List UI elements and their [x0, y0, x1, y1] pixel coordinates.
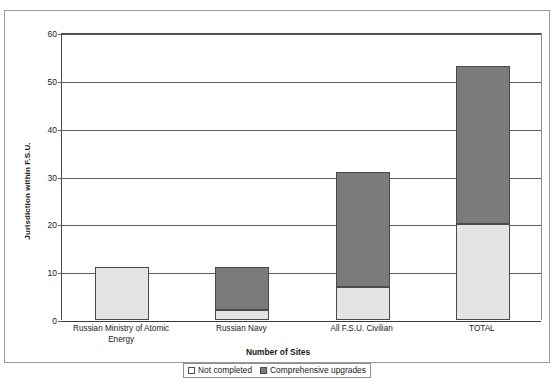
- y-tick-mark-50: [58, 82, 62, 83]
- y-tick-label: 40: [48, 125, 57, 135]
- bar-segment-comprehensive-upgrades[interactable]: [336, 172, 390, 287]
- y-axis-title: Jurisdiction within F.S.U.: [21, 0, 35, 111]
- bar-segment-not-completed[interactable]: [456, 224, 510, 320]
- y-tick-label: 60: [48, 29, 57, 39]
- comprehensive-upgrades-swatch: [260, 367, 267, 374]
- category-label: Russian Navy: [181, 324, 301, 335]
- y-tick-mark-30: [58, 178, 62, 179]
- bar-segment-not-completed[interactable]: [215, 310, 269, 320]
- bar-segment-not-completed[interactable]: [336, 287, 390, 320]
- bar-group[interactable]: [456, 33, 510, 320]
- category-label: TOTAL: [422, 324, 542, 335]
- bar-segment-comprehensive-upgrades[interactable]: [456, 66, 510, 224]
- chart-frame: Jurisdiction within F.S.U. 6050403020100…: [4, 10, 550, 363]
- gridline-0: [62, 321, 541, 322]
- legend-entry[interactable]: Not completed: [188, 365, 252, 375]
- y-tick-mark-20: [58, 225, 62, 226]
- bar-segment-comprehensive-upgrades[interactable]: [215, 267, 269, 310]
- bar-group[interactable]: [95, 33, 149, 320]
- y-axis-title-text: Jurisdiction within F.S.U.: [21, 111, 35, 271]
- bar-group[interactable]: [336, 33, 390, 320]
- x-axis-title: Number of Sites: [5, 347, 551, 357]
- category-label: Russian Ministry of AtomicEnergy: [61, 324, 181, 345]
- legend-label: Not completed: [198, 365, 252, 375]
- y-tick-mark-60: [58, 34, 62, 35]
- y-tick-mark-40: [58, 130, 62, 131]
- bar-group[interactable]: [215, 33, 269, 320]
- category-label-line: Russian Ministry of Atomic: [61, 324, 181, 335]
- category-label-line: All F.S.U. Civilian: [302, 324, 422, 335]
- y-tick-label: 30: [48, 173, 57, 183]
- category-label: All F.S.U. Civilian: [302, 324, 422, 335]
- y-tick-mark-10: [58, 273, 62, 274]
- y-tick-label: 0: [52, 316, 57, 326]
- y-tick-label: 10: [48, 268, 57, 278]
- y-tick-mark-0: [58, 321, 62, 322]
- y-tick-label: 50: [48, 77, 57, 87]
- bar-segment-not-completed[interactable]: [95, 267, 149, 320]
- category-label-line: Energy: [61, 335, 181, 346]
- legend-label: Comprehensive upgrades: [270, 365, 366, 375]
- y-tick-label: 20: [48, 220, 57, 230]
- legend-entry[interactable]: Comprehensive upgrades: [260, 365, 366, 375]
- category-label-line: Russian Navy: [181, 324, 301, 335]
- category-label-line: TOTAL: [422, 324, 542, 335]
- plot-area: 6050403020100: [61, 33, 542, 320]
- chart-legend: Not completedComprehensive upgrades: [183, 363, 371, 378]
- not-completed-swatch: [188, 367, 195, 374]
